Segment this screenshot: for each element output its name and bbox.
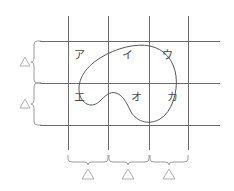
- bottom-brace-2-triangle-icon: [122, 169, 134, 179]
- bottom-brace-3: [150, 155, 188, 165]
- region-label-u: ウ: [162, 50, 173, 61]
- left-brace-upper-triangle-icon: [20, 57, 30, 66]
- region-label-ka: カ: [167, 92, 178, 103]
- left-brace-markers: [20, 57, 30, 108]
- left-braces: [31, 41, 41, 125]
- bottom-brace-1-triangle-icon: [82, 169, 94, 179]
- bottom-brace-3-triangle-icon: [163, 169, 175, 179]
- bottom-brace-markers: [82, 169, 175, 179]
- region-label-a: ア: [74, 50, 85, 61]
- left-brace-lower-triangle-icon: [20, 99, 30, 108]
- region-label-i: イ: [122, 50, 133, 61]
- left-brace-lower: [31, 83, 41, 125]
- region-label-o: オ: [131, 92, 142, 103]
- bottom-brace-2: [109, 155, 149, 165]
- bottom-braces: [68, 155, 188, 165]
- bottom-brace-1: [68, 155, 108, 165]
- figure-container: ア イ ウ エ オ カ: [0, 0, 234, 191]
- diagram-canvas: [0, 0, 234, 191]
- region-label-e: エ: [74, 92, 85, 103]
- left-brace-upper: [31, 41, 41, 83]
